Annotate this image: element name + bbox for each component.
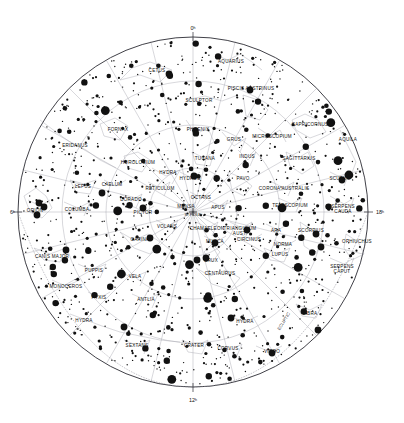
- constellation-label-s-pole: S. POLE: [184, 212, 201, 217]
- constellation-label-sextans: SEXTANS: [126, 343, 149, 348]
- constellation-label-corvus: CORVUS: [217, 346, 238, 351]
- constellation-label-hydra: HYDRA: [159, 170, 177, 175]
- constellation-label-crux: CRUX: [204, 258, 218, 263]
- constellation-label-ara: ARA: [271, 228, 282, 233]
- constellation-label-chamaeleon: CHAMAELEON: [190, 226, 225, 231]
- constellation-label-ophiuchus: OPHIUCHUS: [342, 239, 372, 244]
- constellation-label-canis-major: CANIS MAJOR: [35, 254, 70, 259]
- constellation-label-grus: GRUS: [227, 137, 241, 142]
- constellation-label-apus: APUS: [211, 205, 225, 210]
- constellation-label-ecliptic: ECLIPTIC: [276, 311, 291, 330]
- constellation-label-vela: VELA: [129, 274, 142, 279]
- hour-label-18: 18ʰ: [376, 209, 384, 215]
- constellation-label-lupus: LUPUS: [272, 252, 289, 257]
- constellation-label-hydrus: HYDRUS: [180, 176, 201, 181]
- constellation-label-centaurus: CENTAURUS: [205, 271, 236, 276]
- constellation-label-puppis: PUPPIS: [85, 268, 103, 273]
- constellation-label-crater: CRATER: [184, 343, 204, 348]
- constellation-label-mensa: MENSA: [177, 204, 195, 209]
- constellation-label-aquila: AQUILA: [339, 137, 358, 142]
- constellation-label-antlia: ANTLIA: [137, 297, 155, 302]
- constellation-label-eridanus: ERIDANUS: [62, 143, 88, 148]
- constellation-label-tucana: TUCANA: [195, 156, 216, 161]
- constellation-label-musca: MUSCA: [206, 239, 225, 244]
- constellation-label-pictor: PICTOR: [134, 210, 153, 215]
- constellation-label-circinus: CIRCINUS: [237, 237, 261, 242]
- constellation-label-scorpius: SCORPIUS: [298, 228, 324, 233]
- constellation-label-horologium: HOROLOGIUM: [121, 160, 155, 165]
- constellation-label-serpens-cauda: SERPENSCAUDA: [331, 204, 355, 214]
- constellation-label-fornax: FORNAX: [108, 127, 129, 132]
- constellation-label-pyxis: PYXIS: [92, 295, 107, 300]
- constellation-label-virgo: VIRGO: [264, 349, 280, 354]
- constellation-label-reticulum: RETICULUM: [145, 186, 174, 191]
- constellation-label-lepus: LEPUS: [75, 184, 91, 189]
- constellation-label-telescopium: TELESCOPIUM: [272, 203, 308, 208]
- constellation-label-norma: NORMA: [274, 242, 293, 247]
- constellation-label-monoceros: MONOCEROS: [50, 284, 83, 289]
- constellation-label-columba: COLUMBA: [65, 207, 90, 212]
- constellation-label-phoenix: PHOENIX: [187, 127, 209, 132]
- constellation-label-corona-australis: CORONA AUSTRALIS: [259, 186, 309, 191]
- hour-label-0: 0ʰ: [190, 25, 195, 31]
- star-chart: CETUSAQUARIUSSCULPTORPISCIS AUSTRINUSCAP…: [0, 0, 404, 423]
- constellation-label-libra: LIBRA: [303, 311, 318, 316]
- hour-label-6: 6ʰ: [10, 209, 15, 215]
- constellation-label-pavo: PAVO: [236, 176, 249, 181]
- constellation-label-volans: VOLANS: [157, 224, 177, 229]
- constellation-label-dorado: DORADO: [120, 197, 142, 202]
- constellation-label-hydra: HYDRA: [236, 319, 254, 324]
- constellation-label-carina: CARINA: [131, 237, 151, 242]
- constellation-label-serpens-caput: SERPENSCAPUT: [330, 264, 354, 274]
- constellation-label-microscopium: MICROSCOPIUM: [252, 134, 292, 139]
- constellation-label-octans: OCTANS: [191, 195, 211, 200]
- constellation-label-aquarius: AQUARIUS: [218, 59, 244, 64]
- constellation-label-caelum: CAELUM: [102, 182, 123, 187]
- constellation-label-sculptor: SCULPTOR: [186, 98, 213, 103]
- constellation-label-orion: ORION: [27, 208, 43, 213]
- constellation-label-piscis-austrinus: PISCIS AUSTRINUS: [228, 86, 275, 91]
- hour-label-12: 12ʰ: [189, 397, 197, 403]
- constellation-label-indus: INDUS: [239, 154, 255, 159]
- constellation-label-hydra: HYDRA: [75, 318, 93, 323]
- constellation-label-scutum: SCUTUM: [329, 176, 350, 181]
- constellation-label-sagittarius: SAGITTARIUS: [282, 156, 315, 161]
- constellation-label-cetus: CETUS: [149, 68, 166, 73]
- constellation-label-capricornus: CAPRICORNUS: [292, 122, 329, 127]
- sky-map-svg: CETUSAQUARIUSSCULPTORPISCIS AUSTRINUSCAP…: [0, 0, 404, 423]
